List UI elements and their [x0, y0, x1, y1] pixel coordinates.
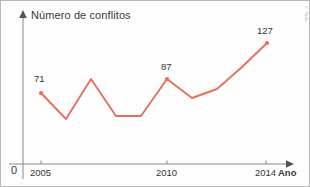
data-series-conflitos	[39, 41, 269, 119]
x-tick-label-2014: 2014	[255, 167, 276, 178]
origin-label: 0	[11, 164, 17, 176]
data-label-2005: 71	[34, 73, 45, 84]
x-tick-label-2005: 2005	[30, 167, 51, 178]
chart-axes	[9, 10, 294, 179]
y-axis-arrow-icon	[19, 10, 27, 18]
series-polyline	[41, 43, 267, 119]
chart-frame: Número de conflitos Ano 0 2005 2010 2014…	[0, 0, 310, 187]
x-axis-title: Ano	[278, 167, 296, 178]
y-axis-title: Número de conflitos	[31, 9, 131, 21]
data-point-marker-2014	[265, 41, 269, 45]
data-point-marker-2010	[165, 77, 169, 81]
data-label-2014: 127	[257, 25, 273, 36]
x-tick-label-2010: 2010	[156, 167, 177, 178]
data-label-2010: 87	[161, 61, 172, 72]
credit-watermark: © Vadis	[300, 5, 308, 22]
data-point-marker-2005	[39, 91, 43, 95]
